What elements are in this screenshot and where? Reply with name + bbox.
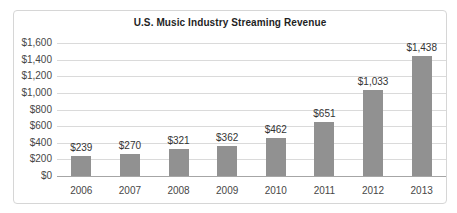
x-tick-label: 2008 bbox=[154, 185, 203, 197]
bar-value-label: $462 bbox=[244, 124, 308, 135]
y-tick-label: $600 bbox=[30, 121, 52, 131]
y-tick-label: $200 bbox=[30, 154, 52, 164]
bar-2013 bbox=[412, 56, 432, 176]
bar-2008 bbox=[169, 149, 189, 176]
y-tick-label: $800 bbox=[30, 105, 52, 115]
y-tick-label: $1,200 bbox=[21, 71, 52, 81]
x-tick-label: 2006 bbox=[57, 185, 106, 197]
y-gridline bbox=[57, 93, 446, 94]
page: U.S. Music Industry Streaming Revenue $0… bbox=[0, 0, 457, 213]
y-gridline bbox=[57, 60, 446, 61]
y-gridline bbox=[57, 110, 446, 111]
bar-value-label: $651 bbox=[292, 108, 356, 119]
y-gridline bbox=[57, 159, 446, 160]
y-gridline bbox=[57, 43, 446, 44]
y-axis: $0$200$400$600$800$1,000$1,200$1,400$1,6… bbox=[14, 44, 52, 177]
y-tick-label: $1,400 bbox=[21, 55, 52, 65]
bar-chart: U.S. Music Industry Streaming Revenue $0… bbox=[13, 10, 447, 204]
y-tick-label: $1,000 bbox=[21, 88, 52, 98]
bar-2007 bbox=[120, 154, 140, 176]
chart-title: U.S. Music Industry Streaming Revenue bbox=[14, 17, 446, 28]
x-axis-line bbox=[57, 176, 446, 177]
x-tick-label: 2010 bbox=[252, 185, 301, 197]
x-tick-label: 2013 bbox=[397, 185, 446, 197]
x-tick-label: 2007 bbox=[106, 185, 155, 197]
bar-2006 bbox=[71, 156, 91, 176]
bar-2012 bbox=[363, 90, 383, 176]
x-tick-label: 2012 bbox=[349, 185, 398, 197]
y-tick-label: $0 bbox=[41, 171, 52, 181]
bar-value-label: $1,033 bbox=[341, 76, 405, 87]
bar-2009 bbox=[217, 146, 237, 176]
x-axis: 20062007200820092010201120122013 bbox=[57, 185, 446, 198]
bar-value-label: $1,438 bbox=[390, 42, 454, 53]
x-tick-label: 2009 bbox=[203, 185, 252, 197]
bar-2011 bbox=[314, 122, 334, 176]
plot-area: $239$270$321$362$462$651$1,033$1,438 bbox=[57, 44, 446, 177]
x-tick-label: 2011 bbox=[300, 185, 349, 197]
bar-2010 bbox=[266, 138, 286, 176]
y-tick-label: $1,600 bbox=[21, 38, 52, 48]
